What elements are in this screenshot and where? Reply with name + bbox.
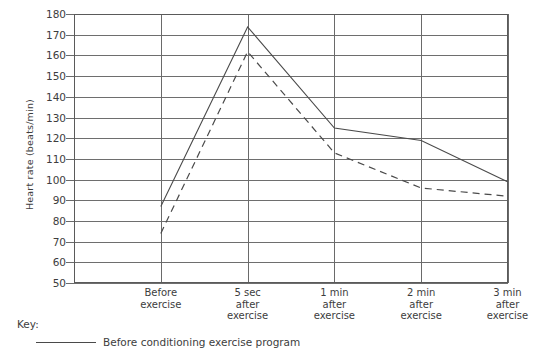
x-tick-label-3-min-after-exercise: 3 min after exercise [487,287,528,322]
y-tick-label: 110 [46,154,66,164]
legend-entry-label: Before conditioning exercise program [103,336,300,348]
x-tick-line: 1 min [314,287,355,299]
y-tick-label: 160 [46,50,66,60]
y-tick-label: 60 [53,257,66,267]
y-tick-label: 140 [46,92,66,102]
y-tick-label: 170 [46,30,66,40]
y-tick-label: 150 [46,71,66,81]
x-tick-line: exercise [140,299,181,311]
y-tick-label: 70 [53,237,66,247]
y-tick-label: 180 [46,9,66,19]
x-tick-line: exercise [487,310,528,322]
x-axis-tick-labels: Before exercise 5 sec after exercise 1 m… [0,287,533,327]
x-tick-line: exercise [314,310,355,322]
series-after-conditioning-line [161,52,508,234]
x-tick-line: 2 min [401,287,442,299]
legend-entry-before-conditioning: Before conditioning exercise program [36,336,300,348]
x-tick-line: exercise [401,310,442,322]
x-tick-line: Before [140,287,181,299]
y-axis-tick-labels: 180 170 160 150 140 130 120 110 100 90 8… [0,14,74,283]
x-tick-line: after [314,299,355,311]
x-tick-label-1-min-after-exercise: 1 min after exercise [314,287,355,322]
x-tick-line: after [227,299,268,311]
y-tick-label: 90 [53,195,66,205]
data-series-layer [74,14,508,283]
series-before-conditioning-line [161,27,508,207]
legend-key-label: Key: [17,318,39,330]
x-tick-line: 5 sec [227,287,268,299]
x-tick-line: after [401,299,442,311]
y-tick-label: 100 [46,175,66,185]
x-tick-line: exercise [227,310,268,322]
y-tick-label: 130 [46,113,66,123]
y-tick-label: 80 [53,216,66,226]
x-tick-line: 3 min [487,287,528,299]
x-tick-label-before-exercise: Before exercise [140,287,181,310]
x-tick-label-2-min-after-exercise: 2 min after exercise [401,287,442,322]
legend-solid-line-swatch [36,342,96,343]
x-tick-line: after [487,299,528,311]
x-tick-label-5-sec-after-exercise: 5 sec after exercise [227,287,268,322]
plot-area [74,14,508,283]
heart-rate-line-chart: Heart rate (beats/min) 180 170 160 150 1… [0,0,533,358]
y-tick-label: 120 [46,133,66,143]
